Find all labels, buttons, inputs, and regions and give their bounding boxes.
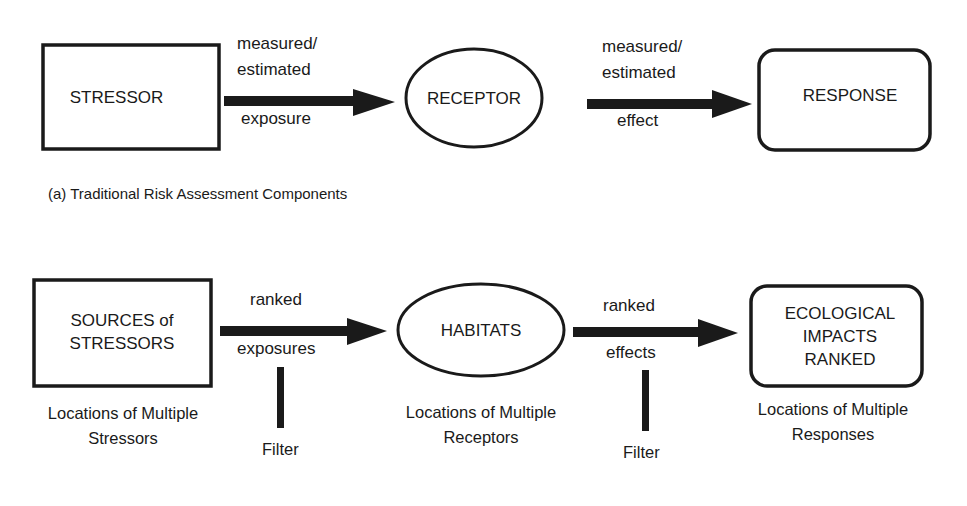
responses-location-line1: Locations of Multiple (730, 397, 936, 422)
stressor-label: STRESSOR (43, 86, 190, 109)
sources-label: SOURCES of STRESSORS (46, 309, 198, 355)
effects-label-ranked: ranked (603, 296, 655, 316)
receptors-location-label: Locations of Multiple Receptors (378, 400, 584, 450)
effect-label: effect (617, 111, 658, 131)
impacts-label-line3: RANKED (766, 348, 914, 371)
exposure-label: exposure (241, 109, 311, 129)
responses-location-label: Locations of Multiple Responses (730, 397, 936, 447)
stressors-location-label: Locations of Multiple Stressors (20, 401, 226, 451)
exposures-label-ranked: ranked (250, 290, 302, 310)
effects-label: effects (606, 343, 656, 363)
effect-label-estimated: estimated (602, 63, 676, 83)
receptors-location-line2: Receptors (378, 425, 584, 450)
response-label: RESPONSE (784, 84, 916, 107)
exposures-label: exposures (237, 339, 315, 359)
impacts-label-line2: IMPACTS (766, 325, 914, 348)
panel-a-caption: (a) Traditional Risk Assessment Componen… (48, 185, 347, 202)
stressors-location-line2: Stressors (20, 426, 226, 451)
receptor-label: RECEPTOR (406, 87, 542, 110)
effects-filter-bar (642, 370, 649, 431)
exposures-filter-label: Filter (262, 440, 299, 459)
exposure-label-measured: measured/ (237, 34, 317, 54)
impacts-label-line1: ECOLOGICAL (766, 302, 914, 325)
receptors-location-line1: Locations of Multiple (378, 400, 584, 425)
responses-location-line2: Responses (730, 422, 936, 447)
stressors-location-line1: Locations of Multiple (20, 401, 226, 426)
sources-label-line1: SOURCES of (46, 309, 198, 332)
effects-filter-label: Filter (623, 443, 660, 462)
habitats-label: HABITATS (410, 319, 552, 342)
exposures-filter-bar (277, 367, 284, 428)
exposure-label-estimated: estimated (237, 60, 311, 80)
sources-label-line2: STRESSORS (46, 332, 198, 355)
effect-arrow (587, 90, 752, 118)
effect-label-measured: measured/ (602, 37, 682, 57)
impacts-label: ECOLOGICAL IMPACTS RANKED (766, 302, 914, 371)
